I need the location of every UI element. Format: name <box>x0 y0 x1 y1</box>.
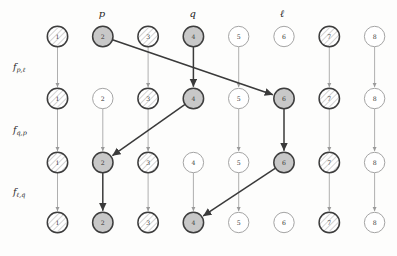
node-label: 2 <box>101 33 105 40</box>
column-marker-3: ℓ <box>280 8 284 19</box>
node-label: 8 <box>373 33 377 40</box>
node-label: 1 <box>56 159 60 166</box>
node-r3-c8-empty[interactable]: 8 <box>364 152 384 172</box>
node-label: 6 <box>282 159 286 166</box>
row-gap-label-3: fℓ,q <box>13 186 25 199</box>
node-label: 3 <box>146 219 150 226</box>
node-r4-c1-hatched[interactable]: 1 <box>47 212 67 232</box>
node-label: 1 <box>56 95 60 102</box>
node-label: 7 <box>327 159 331 166</box>
node-r2-c1-hatched[interactable]: 1 <box>47 88 67 108</box>
node-label: 8 <box>373 95 377 102</box>
node-label: 1 <box>56 33 60 40</box>
node-r3-c7-hatched[interactable]: 7 <box>319 152 339 172</box>
row-gap-label-subscript: q,p <box>17 128 27 136</box>
diagram-canvas: 12345678123456781234567812345678 fp,ℓfq,… <box>0 0 397 256</box>
node-r2-c2-empty[interactable]: 2 <box>93 88 113 108</box>
node-r1-c1-hatched[interactable]: 1 <box>47 26 67 46</box>
node-label: 4 <box>191 159 195 166</box>
node-r2-c6-filled[interactable]: 6 <box>274 88 294 108</box>
node-label: 4 <box>191 219 195 226</box>
row-gap-label-subscript: p,ℓ <box>17 65 26 73</box>
node-label: 2 <box>101 95 105 102</box>
node-r3-c6-filled[interactable]: 6 <box>274 152 294 172</box>
node-label: 7 <box>327 33 331 40</box>
node-label: 1 <box>56 219 60 226</box>
node-r3-c2-filled[interactable]: 2 <box>93 152 113 172</box>
node-r4-c8-empty[interactable]: 8 <box>364 212 384 232</box>
row-gap-label-1: fp,ℓ <box>13 61 25 74</box>
node-r4-c2-filled[interactable]: 2 <box>93 212 113 232</box>
node-r1-c2-filled[interactable]: 2 <box>93 26 113 46</box>
node-label: 8 <box>373 219 377 226</box>
node-r4-c3-hatched[interactable]: 3 <box>138 212 158 232</box>
node-r1-c8-empty[interactable]: 8 <box>364 26 384 46</box>
node-r2-c7-hatched[interactable]: 7 <box>319 88 339 108</box>
node-label: 3 <box>146 159 150 166</box>
node-r2-c8-empty[interactable]: 8 <box>364 88 384 108</box>
node-label: 6 <box>282 95 286 102</box>
node-r1-c3-hatched[interactable]: 3 <box>138 26 158 46</box>
node-label: 6 <box>282 33 286 40</box>
node-r4-c6-empty[interactable]: 6 <box>274 212 294 232</box>
node-r4-c4-filled[interactable]: 4 <box>183 212 203 232</box>
node-label: 4 <box>191 95 195 102</box>
node-r2-c3-hatched[interactable]: 3 <box>138 88 158 108</box>
node-r3-c5-empty[interactable]: 5 <box>229 152 249 172</box>
node-layer: 12345678123456781234567812345678 <box>0 0 397 256</box>
column-marker-2: q <box>189 8 195 19</box>
node-r1-c5-empty[interactable]: 5 <box>229 26 249 46</box>
node-label: 2 <box>101 219 105 226</box>
node-label: 5 <box>237 219 241 226</box>
node-r1-c7-hatched[interactable]: 7 <box>319 26 339 46</box>
node-label: 3 <box>146 95 150 102</box>
node-label: 7 <box>327 95 331 102</box>
node-label: 5 <box>237 33 241 40</box>
node-label: 4 <box>191 33 195 40</box>
node-label: 5 <box>237 95 241 102</box>
node-label: 8 <box>373 159 377 166</box>
node-label: 3 <box>146 33 150 40</box>
row-gap-label-2: fq,p <box>13 124 27 137</box>
node-label: 2 <box>101 159 105 166</box>
node-r4-c5-empty[interactable]: 5 <box>229 212 249 232</box>
node-r3-c3-hatched[interactable]: 3 <box>138 152 158 172</box>
node-label: 6 <box>282 219 286 226</box>
node-r3-c1-hatched[interactable]: 1 <box>47 152 67 172</box>
node-label: 7 <box>327 219 331 226</box>
column-marker-1: p <box>99 8 105 19</box>
node-r2-c4-filled[interactable]: 4 <box>183 88 203 108</box>
node-r4-c7-hatched[interactable]: 7 <box>319 212 339 232</box>
node-r1-c6-empty[interactable]: 6 <box>274 26 294 46</box>
node-r2-c5-empty[interactable]: 5 <box>229 88 249 108</box>
node-label: 5 <box>237 159 241 166</box>
node-r1-c4-filled[interactable]: 4 <box>183 26 203 46</box>
row-gap-label-subscript: ℓ,q <box>17 190 26 198</box>
node-r3-c4-empty[interactable]: 4 <box>183 152 203 172</box>
